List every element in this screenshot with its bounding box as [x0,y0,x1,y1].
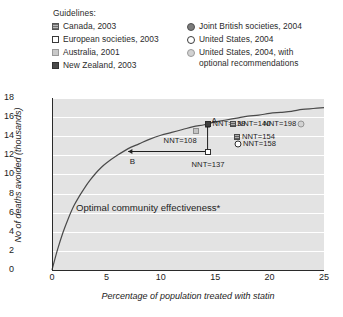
x-tick-label: 25 [309,272,339,282]
y-tick-label: 10 [0,168,14,178]
data-point-label: NNT=137 [192,160,225,169]
hatched-square-icon [52,23,59,30]
x-axis-line [52,270,324,271]
legend-item-label: New Zealand, 2003 [63,60,136,71]
legend-item-canada: Canada, 2003 [52,21,187,34]
data-point-marker [298,120,305,127]
statin-effectiveness-chart: AB NNT=108NNT=137NNT=139NNT=140NNT=154NN… [0,86,343,317]
plot-area: AB NNT=108NNT=137NNT=139NNT=140NNT=154NN… [52,98,324,270]
data-point-marker [230,121,236,127]
x-tick-label: 10 [146,272,176,282]
x-tick-label: 5 [91,272,121,282]
legend-item-label: United States, 2004 [199,34,274,45]
x-tick-label: 0 [37,272,67,282]
y-tick-label: 6 [0,207,14,217]
legend-item-european-societies: European societies, 2003 [52,34,187,47]
legend-item-united-states: United States, 2004 [187,34,337,47]
legend-column-right: Joint British societies, 2004 United Sta… [187,21,337,68]
y-tick-label: 2 [0,245,14,255]
y-axis-title: No of deaths avoided (thousands) [13,85,23,265]
legend-title: Guidelines: [53,8,338,18]
legend-column-left: Canada, 2003 European societies, 2003 Au… [52,21,187,73]
open-circle-icon [187,36,195,44]
data-point-marker [235,140,242,147]
y-tick-label: 18 [0,92,14,102]
legend-item-united-states-optional: United States, 2004, with optional recom… [187,47,337,68]
x-tick-label: 15 [200,272,230,282]
data-point-marker [205,149,211,155]
annotation-label: B [130,157,135,166]
dark-square-icon [52,62,59,69]
y-tick-label: 0 [0,264,14,274]
x-tick-label: 20 [255,272,285,282]
data-point-marker [205,121,211,127]
legend-columns: Canada, 2003 European societies, 2003 Au… [52,21,338,73]
legend-item-label: Joint British societies, 2004 [199,21,302,32]
data-point-label: NNT=198 [263,119,296,128]
legend-item-label: European societies, 2003 [63,34,159,45]
y-axis-line [52,98,53,270]
y-tick-label: 12 [0,149,14,159]
data-point-label: NNT=108 [164,136,197,145]
lightgray-circle-icon [187,49,195,57]
y-tick-label: 8 [0,188,14,198]
y-tick-label: 4 [0,226,14,236]
chart-legend: Guidelines: Canada, 2003 European societ… [52,8,338,73]
legend-item-new-zealand: New Zealand, 2003 [52,60,187,73]
white-square-icon [52,36,59,43]
legend-item-australia: Australia, 2001 [52,47,187,60]
lightgray-square-icon [52,49,59,56]
legend-item-joint-british-societies: Joint British societies, 2004 [187,21,337,34]
legend-item-label: United States, 2004, with optional recom… [199,47,298,69]
y-tick-label: 16 [0,111,14,121]
data-point-label: NNT=158 [243,139,276,148]
x-axis-title: Percentage of population treated with st… [52,291,324,301]
legend-item-label: Canada, 2003 [63,21,116,32]
data-point-marker [234,134,240,140]
y-tick-label: 14 [0,130,14,140]
curve-caption: Optimal community effectiveness* [76,202,220,213]
legend-item-label: Australia, 2001 [63,47,120,58]
filled-circle-icon [187,23,195,31]
data-point-marker [193,128,199,134]
